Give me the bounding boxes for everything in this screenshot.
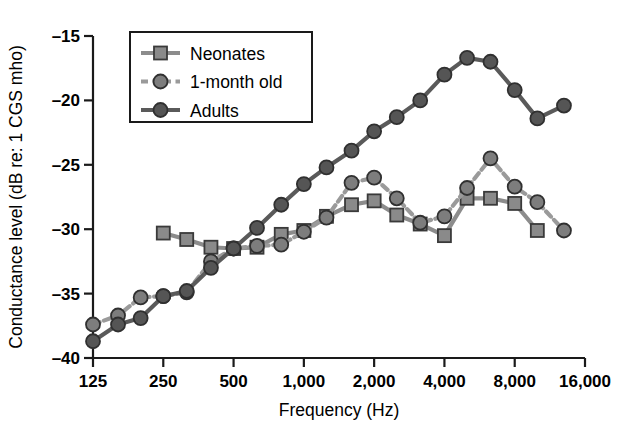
- data-point-marker: [111, 318, 125, 332]
- data-point-marker: [483, 151, 497, 165]
- legend-label-neonates: Neonates: [190, 44, 265, 64]
- data-point-marker: [319, 211, 333, 225]
- conductance-level-chart: –15–20–25–30–35–401252505001,0002,0004,0…: [0, 0, 617, 433]
- x-axis-tick-label: 250: [149, 372, 177, 391]
- data-point-marker: [180, 284, 194, 298]
- x-axis-tick-label: 1,000: [283, 372, 326, 391]
- x-axis-tick-label: 8,000: [493, 372, 536, 391]
- legend-label-adults: Adults: [190, 101, 239, 121]
- x-axis-tick-label: 2,000: [353, 372, 396, 391]
- data-point-marker: [297, 225, 311, 239]
- y-axis-title: Conductance level (dB re: 1 CGS mho): [6, 45, 26, 348]
- data-point-marker: [508, 197, 521, 210]
- data-point-marker: [319, 160, 333, 174]
- data-point-marker: [413, 216, 427, 230]
- data-point-marker: [86, 334, 100, 348]
- data-point-marker: [413, 93, 427, 107]
- data-point-marker: [367, 124, 381, 138]
- data-point-marker: [368, 194, 381, 207]
- data-point-marker: [530, 195, 544, 209]
- data-point-marker: [390, 209, 403, 222]
- data-point-marker: [134, 311, 148, 325]
- data-point-marker: [437, 68, 451, 82]
- data-point-marker: [227, 242, 241, 256]
- legend-label-1-month-old: 1-month old: [190, 72, 282, 92]
- y-axis-tick-label: –30: [52, 220, 80, 239]
- data-point-marker: [367, 171, 381, 185]
- data-point-marker: [297, 177, 311, 191]
- y-axis-tick-label: –35: [52, 285, 80, 304]
- y-axis-tick-label: –15: [52, 27, 80, 46]
- data-point-marker: [460, 181, 474, 195]
- data-point-marker: [274, 198, 288, 212]
- data-point-marker: [438, 229, 451, 242]
- data-point-marker: [180, 233, 193, 246]
- data-point-marker: [274, 238, 288, 252]
- data-point-marker: [557, 223, 571, 237]
- data-point-marker: [204, 261, 218, 275]
- y-axis-tick-label: –40: [52, 349, 80, 368]
- x-axis-tick-label: 500: [219, 372, 247, 391]
- x-axis-tick-label: 16,000: [559, 372, 611, 391]
- data-point-marker: [437, 209, 451, 223]
- data-point-marker: [530, 111, 544, 125]
- x-axis-tick-label: 4,000: [423, 372, 466, 391]
- data-point-marker: [250, 221, 264, 235]
- data-point-marker: [557, 99, 571, 113]
- data-point-marker: [156, 289, 170, 303]
- chart-legend: Neonates1-month oldAdults: [130, 32, 312, 122]
- data-point-marker: [390, 110, 404, 124]
- x-axis-tick-label: 125: [79, 372, 107, 391]
- chart-svg: –15–20–25–30–35–401252505001,0002,0004,0…: [0, 0, 617, 433]
- data-point-marker: [204, 241, 217, 254]
- legend-marker: [154, 75, 168, 89]
- data-point-marker: [460, 51, 474, 65]
- data-point-marker: [508, 83, 522, 97]
- legend-marker: [154, 47, 167, 60]
- data-point-marker: [484, 192, 497, 205]
- data-point-marker: [250, 239, 264, 253]
- data-point-marker: [531, 224, 544, 237]
- data-point-marker: [157, 227, 170, 240]
- data-point-marker: [508, 180, 522, 194]
- data-point-marker: [345, 176, 359, 190]
- x-axis-title: Frequency (Hz): [279, 400, 400, 420]
- data-point-marker: [345, 198, 358, 211]
- data-point-marker: [86, 318, 100, 332]
- data-point-marker: [483, 55, 497, 69]
- y-axis-tick-label: –20: [52, 91, 80, 110]
- y-axis-tick-label: –25: [52, 156, 80, 175]
- data-point-marker: [134, 290, 148, 304]
- data-point-marker: [345, 144, 359, 158]
- data-point-marker: [390, 191, 404, 205]
- legend-marker: [154, 103, 168, 117]
